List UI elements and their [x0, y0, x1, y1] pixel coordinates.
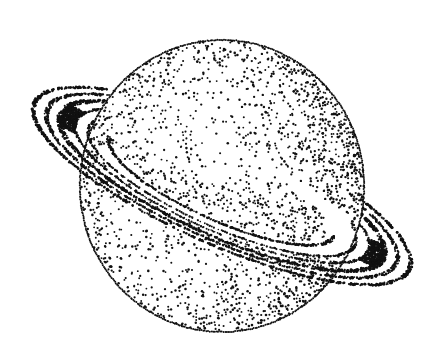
planet-body [79, 39, 366, 333]
ring-front [31, 101, 411, 286]
saturn-icon [0, 0, 443, 347]
saturn-illustration [0, 0, 443, 347]
